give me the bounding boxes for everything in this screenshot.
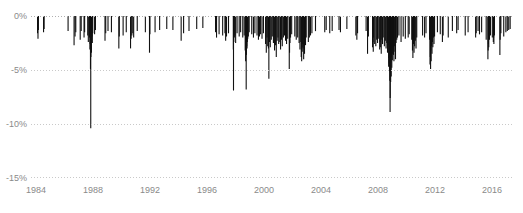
x-tick-label-2000: 2000 [254,186,274,195]
x-tick-label-2016: 2016 [482,186,502,195]
y-tick-label-minus10: -10% [0,120,27,129]
gridline-0 [31,16,513,17]
x-tick-label-1984: 1984 [26,186,46,195]
x-tick-label-1988: 1988 [83,186,103,195]
y-tick-label-minus5: -5% [0,66,27,75]
x-axis-labels: 1984 1988 1992 1996 2000 2004 2008 2012 … [0,186,523,204]
y-tick-label-0: 0% [0,12,27,21]
gridline-minus10 [31,124,513,125]
x-tick-label-1992: 1992 [140,186,160,195]
spike-series [31,16,513,178]
gridline-minus15 [31,177,513,178]
plot-area [31,16,513,178]
volatility-spike-chart: 0% -5% -10% -15% 1984 1988 1992 1996 200… [0,0,523,213]
gridline-minus5 [31,70,513,71]
x-tick-label-2012: 2012 [425,186,445,195]
x-tick-label-2004: 2004 [311,186,331,195]
y-tick-label-minus15: -15% [0,174,27,183]
x-tick-label-2008: 2008 [368,186,388,195]
x-tick-label-1996: 1996 [197,186,217,195]
